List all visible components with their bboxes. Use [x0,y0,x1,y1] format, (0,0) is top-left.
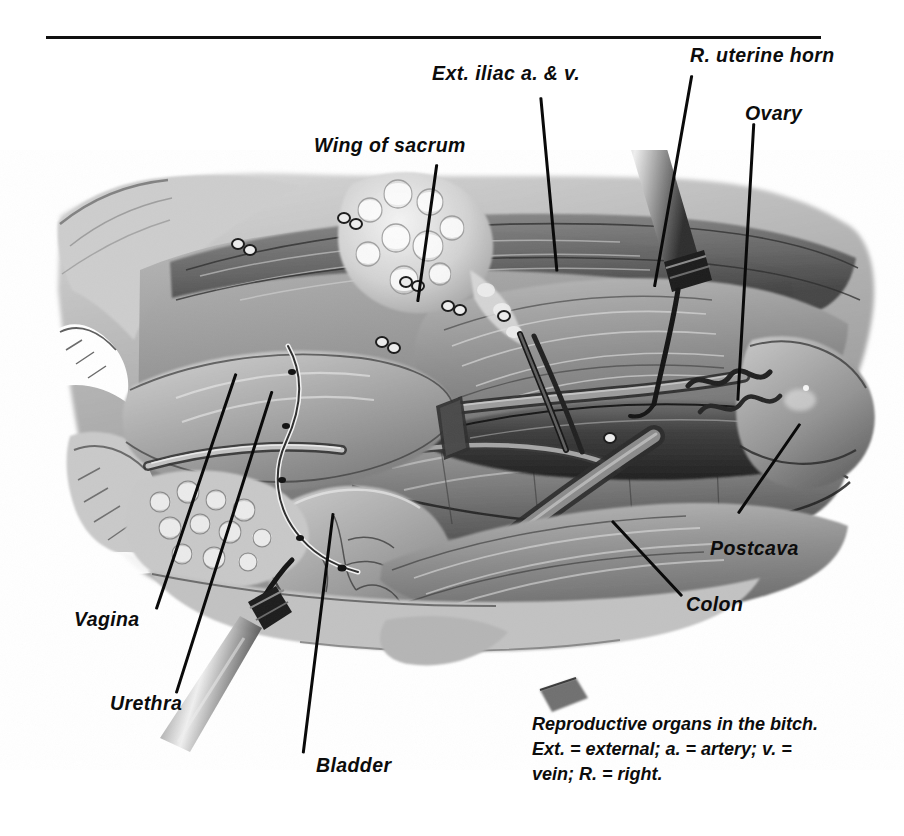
label-wing-of-sacrum: Wing of sacrum [314,136,466,156]
label-urethra: Urethra [110,694,182,714]
caption-line-3: vein; R. = right. [532,762,872,787]
figure-page: Ext. iliac a. & v. R. uterine horn Ovary… [0,0,904,836]
label-ovary: Ovary [745,104,802,124]
label-postcava: Postcava [710,539,799,559]
label-r-uterine-horn: R. uterine horn [690,46,835,66]
illustration-grain-overlay [0,150,904,770]
label-ext-iliac-a-v: Ext. iliac a. & v. [432,64,580,84]
caption-line-1: Reproductive organs in the bitch. [532,712,872,737]
figure-caption: Reproductive organs in the bitch. Ext. =… [532,712,872,787]
top-rule-divider [46,36,821,39]
label-vagina: Vagina [74,610,140,630]
label-colon: Colon [686,595,743,615]
caption-line-2: Ext. = external; a. = artery; v. = [532,737,872,762]
anatomical-illustration [0,150,904,770]
label-bladder: Bladder [316,756,391,776]
